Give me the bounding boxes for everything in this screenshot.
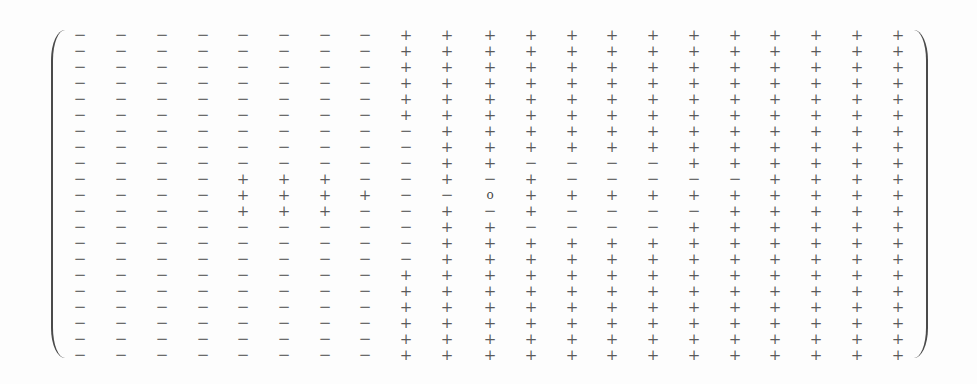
- minus-entry: −: [315, 251, 335, 267]
- minus-entry: −: [274, 331, 294, 347]
- minus-entry: −: [274, 43, 294, 59]
- minus-entry: −: [70, 171, 90, 187]
- minus-entry: −: [111, 219, 131, 235]
- plus-entry: +: [274, 171, 294, 187]
- plus-entry: +: [765, 75, 785, 91]
- plus-entry: +: [643, 331, 663, 347]
- plus-entry: +: [315, 187, 335, 203]
- plus-entry: +: [847, 347, 867, 363]
- plus-entry: +: [847, 91, 867, 107]
- minus-entry: −: [396, 171, 416, 187]
- minus-entry: −: [725, 171, 745, 187]
- minus-entry: −: [70, 283, 90, 299]
- plus-entry: +: [765, 267, 785, 283]
- minus-entry: −: [602, 155, 622, 171]
- minus-entry: −: [193, 91, 213, 107]
- minus-entry: −: [111, 139, 131, 155]
- minus-entry: −: [111, 123, 131, 139]
- plus-entry: +: [725, 43, 745, 59]
- minus-entry: −: [315, 315, 335, 331]
- minus-entry: −: [643, 203, 663, 219]
- plus-entry: +: [806, 187, 826, 203]
- minus-entry: −: [274, 267, 294, 283]
- plus-entry: +: [480, 251, 500, 267]
- plus-entry: +: [437, 107, 457, 123]
- plus-entry: +: [684, 251, 704, 267]
- minus-entry: −: [562, 219, 582, 235]
- plus-entry: +: [602, 75, 622, 91]
- plus-entry: +: [643, 43, 663, 59]
- plus-entry: +: [806, 27, 826, 43]
- plus-entry: +: [806, 91, 826, 107]
- plus-entry: +: [437, 267, 457, 283]
- plus-entry: +: [806, 283, 826, 299]
- plus-entry: +: [806, 299, 826, 315]
- plus-entry: +: [521, 347, 541, 363]
- minus-entry: −: [355, 347, 375, 363]
- plus-entry: +: [396, 27, 416, 43]
- plus-entry: +: [437, 139, 457, 155]
- minus-entry: −: [111, 27, 131, 43]
- minus-entry: −: [193, 331, 213, 347]
- plus-entry: +: [396, 283, 416, 299]
- plus-entry: +: [602, 107, 622, 123]
- plus-entry: +: [684, 75, 704, 91]
- minus-entry: −: [152, 59, 172, 75]
- plus-entry: +: [847, 283, 867, 299]
- plus-entry: +: [725, 219, 745, 235]
- plus-entry: +: [847, 299, 867, 315]
- plus-entry: +: [521, 203, 541, 219]
- plus-entry: +: [437, 27, 457, 43]
- minus-entry: −: [233, 235, 253, 251]
- plus-entry: +: [847, 251, 867, 267]
- plus-entry: +: [725, 283, 745, 299]
- plus-entry: +: [437, 251, 457, 267]
- plus-entry: +: [725, 187, 745, 203]
- plus-entry: +: [562, 267, 582, 283]
- minus-entry: −: [355, 251, 375, 267]
- minus-entry: −: [274, 299, 294, 315]
- minus-entry: −: [233, 347, 253, 363]
- plus-entry: +: [480, 155, 500, 171]
- plus-entry: +: [521, 331, 541, 347]
- plus-entry: +: [521, 59, 541, 75]
- minus-entry: −: [193, 203, 213, 219]
- plus-entry: +: [562, 139, 582, 155]
- minus-entry: −: [315, 155, 335, 171]
- plus-entry: +: [643, 123, 663, 139]
- plus-entry: +: [437, 235, 457, 251]
- minus-entry: −: [70, 219, 90, 235]
- plus-entry: +: [684, 91, 704, 107]
- minus-entry: −: [396, 203, 416, 219]
- minus-entry: −: [274, 59, 294, 75]
- minus-entry: −: [315, 139, 335, 155]
- plus-entry: +: [437, 123, 457, 139]
- right-parenthesis: [912, 30, 928, 358]
- minus-entry: −: [152, 75, 172, 91]
- minus-entry: −: [315, 75, 335, 91]
- plus-entry: +: [806, 139, 826, 155]
- plus-entry: +: [888, 251, 908, 267]
- minus-entry: −: [274, 283, 294, 299]
- plus-entry: +: [562, 43, 582, 59]
- minus-entry: −: [602, 219, 622, 235]
- plus-entry: +: [602, 59, 622, 75]
- plus-entry: +: [888, 203, 908, 219]
- plus-entry: +: [396, 331, 416, 347]
- plus-entry: +: [437, 91, 457, 107]
- plus-entry: +: [684, 315, 704, 331]
- minus-entry: −: [274, 251, 294, 267]
- minus-entry: −: [355, 139, 375, 155]
- sign-matrix: −−−−−−−−+++++++++++++−−−−−−−−+++++++++++…: [0, 0, 977, 384]
- plus-entry: +: [684, 219, 704, 235]
- minus-entry: −: [437, 187, 457, 203]
- minus-entry: −: [315, 43, 335, 59]
- minus-entry: −: [355, 75, 375, 91]
- minus-entry: −: [152, 171, 172, 187]
- plus-entry: +: [725, 139, 745, 155]
- plus-entry: +: [396, 59, 416, 75]
- plus-entry: +: [806, 59, 826, 75]
- minus-entry: −: [111, 203, 131, 219]
- minus-entry: −: [70, 299, 90, 315]
- plus-entry: +: [725, 267, 745, 283]
